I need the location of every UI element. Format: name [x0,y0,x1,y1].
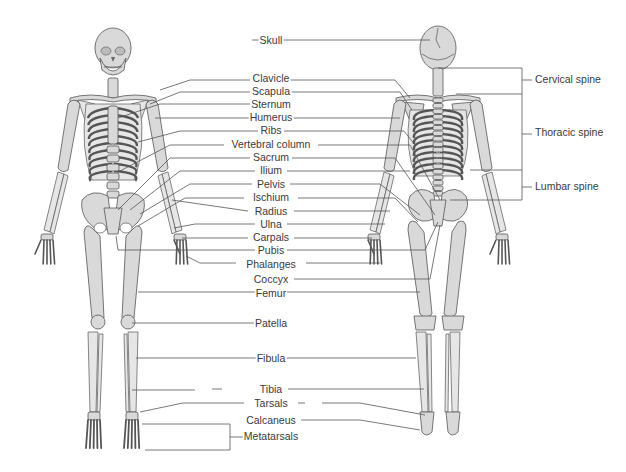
label-thoracic-spine: Thoracic spine [534,126,604,138]
leader-line [174,224,255,228]
label-calcaneus: Calcaneus [245,414,297,426]
vertebra [433,126,443,131]
toe [138,420,139,448]
finger [176,240,177,264]
label-cervical-spine: Cervical spine [534,73,602,85]
leader-line [298,198,418,222]
finger [498,240,499,264]
carpals [496,234,508,240]
tarsals [88,412,100,420]
toe [86,420,88,448]
carpals [41,234,53,240]
posterior-skull [420,26,456,70]
finger [505,240,506,264]
finger [43,240,44,264]
vertebra [433,98,443,103]
vertebra [107,155,119,162]
leader-line [301,420,420,430]
vertebra [107,191,119,198]
label-ribs: Ribs [259,124,282,136]
vertebra [433,131,443,136]
vertebra [433,181,443,186]
leader-line [140,403,244,412]
label-femur: Femur [255,287,287,299]
label-lumbar-spine: Lumbar spine [534,180,600,192]
finger [186,240,188,264]
skeleton-artwork [0,0,626,472]
toe [128,420,129,448]
carpals [368,234,380,240]
finger [377,240,378,264]
finger [50,240,51,264]
vertebra [433,148,443,153]
finger [508,240,510,264]
vertebra [433,159,443,164]
leader-lines [116,40,532,450]
label-ischium: Ischium [252,191,290,203]
carpals [174,234,186,240]
leader-line [160,80,250,90]
leader-line [322,403,425,415]
label-ilium: Ilium [259,164,283,176]
label-sacrum: Sacrum [252,151,290,163]
label-sternum: Sternum [250,98,292,110]
toe [124,420,126,448]
finger [380,240,382,264]
skeleton-diagram: Skull Clavicle Scapula Sternum Humerus R… [0,0,626,472]
vertebra [433,175,443,180]
leader-line [186,256,236,263]
label-metatarsals: Metatarsals [243,430,299,442]
label-vertebral-column: Vertebral column [231,138,312,150]
label-fibula: Fibula [256,352,287,364]
label-ulna: Ulna [259,218,283,230]
finger [370,240,371,264]
tarsals [126,412,138,420]
toe [100,420,101,448]
vertebra [433,104,443,109]
label-tarsals: Tarsals [253,397,288,409]
toe [90,420,91,448]
anterior-skeleton [35,28,188,448]
finger [490,240,496,254]
vertebra [107,164,119,171]
vertebra [433,170,443,175]
vertebra [433,137,443,142]
vertebra [107,146,119,153]
vertebra [433,164,443,169]
label-phalanges: Phalanges [245,258,297,270]
vertebra [433,115,443,120]
vertebra [107,173,119,180]
label-pubis: Pubis [257,244,285,256]
label-coccyx: Coccyx [253,273,289,285]
leader-line [130,171,255,210]
label-pelvis: Pelvis [256,178,286,190]
label-clavicle: Clavicle [252,72,291,84]
vertebra [433,142,443,147]
leader-line [438,68,522,94]
vertebra [433,153,443,158]
leader-line [290,80,410,98]
label-scapula: Scapula [251,85,291,97]
label-patella: Patella [254,317,288,329]
finger [53,240,55,264]
label-humerus: Humerus [249,111,294,123]
leader-line [142,424,230,450]
vertebra [107,182,119,189]
vertebra [433,109,443,114]
label-carpals: Carpals [252,231,290,243]
label-skull: Skull [259,34,284,46]
anterior-skull [95,28,131,75]
anterior-legs [84,226,142,448]
label-radius: Radius [254,205,289,217]
vertebra [433,120,443,125]
leader-line [150,92,250,104]
finger [35,240,41,254]
leader-line [138,198,244,226]
leader-line [290,184,420,215]
label-tibia: Tibia [259,383,283,395]
finger [183,240,184,264]
leader-line [172,200,248,211]
